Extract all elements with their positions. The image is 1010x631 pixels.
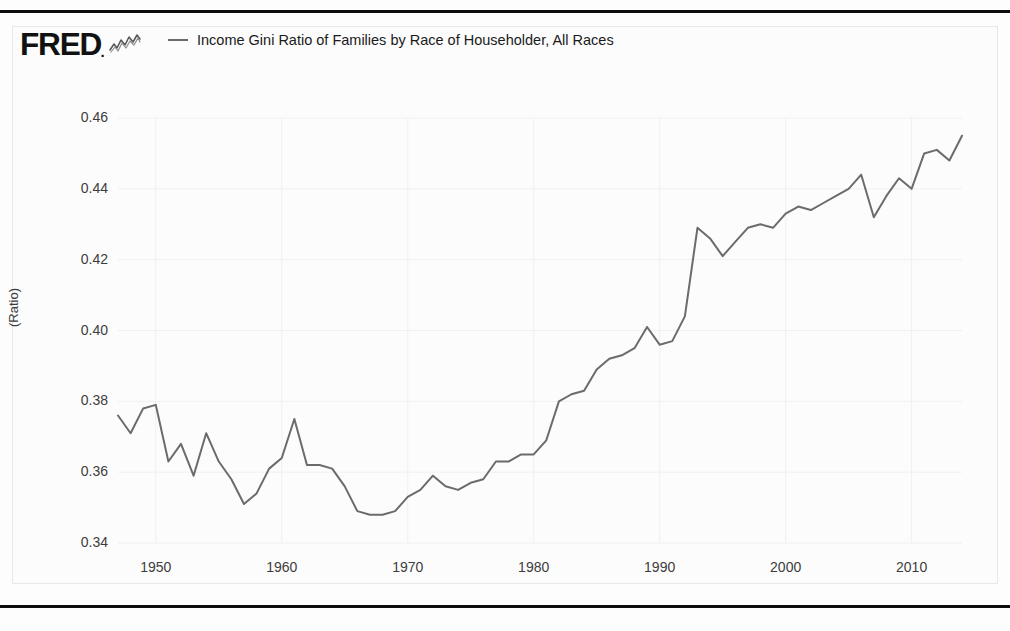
legend-series-label: Income Gini Ratio of Families by Race of… (197, 32, 614, 48)
fred-logo[interactable]: FRED . (20, 24, 141, 60)
top-divider (0, 10, 1010, 13)
chart-frame (12, 26, 998, 584)
chart-legend: Income Gini Ratio of Families by Race of… (168, 30, 614, 50)
legend-line-swatch (168, 39, 188, 41)
squiggle-chart-icon (109, 33, 141, 57)
bottom-divider (0, 605, 1010, 608)
fred-wordmark: FRED (20, 29, 101, 60)
chart-page: FRED . Income Gini Ratio of Families by … (0, 0, 1010, 631)
